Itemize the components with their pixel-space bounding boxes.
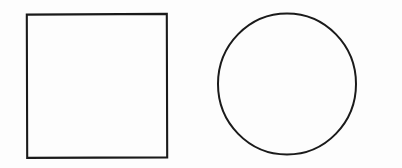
figure-canvas: Two empty outlined geometric shapes side… <box>0 0 402 168</box>
circle-shape <box>218 14 356 155</box>
shapes-figure <box>0 0 402 168</box>
square-shape <box>27 14 167 158</box>
